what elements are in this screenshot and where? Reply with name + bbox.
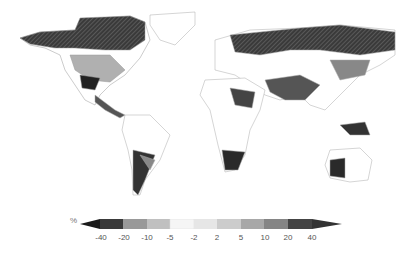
colorbar-tick: -40 (95, 233, 107, 242)
colorbar-tick: 20 (284, 233, 293, 242)
colorbar (80, 219, 342, 229)
south-america (122, 115, 170, 195)
colorbar-tick: -5 (166, 233, 173, 242)
greenland (150, 12, 195, 45)
colorbar-tick: 5 (239, 233, 243, 242)
north-america (20, 16, 150, 105)
colorbar-tick: -2 (190, 233, 197, 242)
indonesia (340, 122, 370, 135)
world-map (0, 0, 407, 215)
colorbar-unit-label: % (70, 216, 77, 225)
africa (200, 78, 265, 172)
australia (325, 148, 372, 182)
colorbar-tick: -20 (118, 233, 130, 242)
colorbar-tick: 40 (308, 233, 317, 242)
central-america (95, 95, 125, 118)
colorbar-tick: -10 (141, 233, 153, 242)
colorbar-tick: 10 (261, 233, 270, 242)
colorbar-tick: 2 (215, 233, 219, 242)
